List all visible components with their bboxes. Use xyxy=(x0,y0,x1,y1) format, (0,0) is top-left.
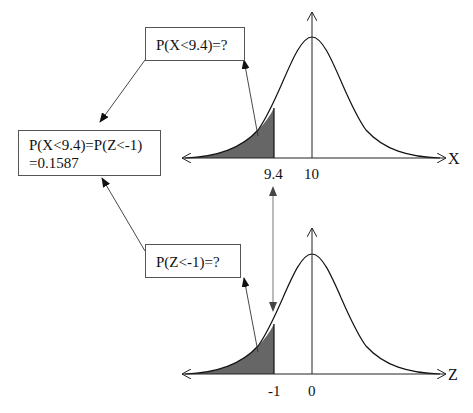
top-shaded-area xyxy=(185,108,274,158)
bottom-shaded-area xyxy=(185,324,274,374)
top-axis-label: X xyxy=(448,151,460,167)
arrow-bottom-box-to-answer xyxy=(102,178,145,251)
top-question-box: P(X<9.4)=? xyxy=(145,27,245,61)
bottom-question-box: P(Z<-1)=? xyxy=(145,244,241,278)
arrow-shade-to-bottom-box xyxy=(244,278,258,352)
answer-line-2: =0.1587 xyxy=(29,154,160,172)
arrow-correspondence-head-top xyxy=(269,186,277,196)
arrow-shade-to-top-box xyxy=(244,60,258,136)
arrow-correspondence-head-bottom xyxy=(269,302,277,312)
answer-box: P(X<9.4)=P(Z<-1) =0.1587 xyxy=(18,130,161,176)
arrow-top-box-to-answer xyxy=(100,60,145,122)
top-tick-mean: 10 xyxy=(304,166,319,182)
answer-line-1: P(X<9.4)=P(Z<-1) xyxy=(29,136,160,154)
bottom-tick-mean: 0 xyxy=(308,383,316,399)
top-question-text: P(X<9.4)=? xyxy=(156,37,228,53)
diagram-canvas xyxy=(0,0,473,413)
bottom-question-text: P(Z<-1)=? xyxy=(156,254,220,270)
bottom-axis-label: Z xyxy=(448,367,458,383)
top-tick-cutoff: 9.4 xyxy=(264,166,283,182)
bottom-tick-cutoff: -1 xyxy=(268,383,281,399)
